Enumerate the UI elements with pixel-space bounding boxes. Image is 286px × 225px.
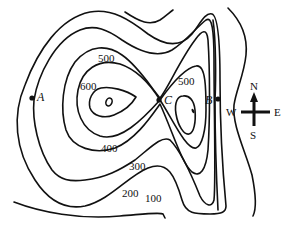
contour-label-400: 400 [101,142,118,154]
contour-label-500-left: 500 [98,52,115,64]
point-c-marker [156,97,161,102]
point-c-label: C [164,93,173,107]
compass-east-label: E [274,106,281,118]
contour-label-600: 600 [80,80,97,92]
compass-south-label: S [250,129,256,141]
contour-label-300: 300 [129,160,146,172]
contour-300 [34,19,215,205]
point-a-marker [29,95,34,100]
contour-600-right [175,96,195,134]
contour-400 [63,32,210,174]
compass-icon [241,92,270,126]
contour-label-200: 200 [122,187,139,199]
point-b-label: B [205,93,213,107]
contour-outer-left [125,10,173,23]
compass-west-label: W [226,106,237,118]
summit-left [105,97,113,107]
compass-north-label: N [250,80,258,92]
contour-map: 500 600 500 400 300 200 100 A C B N S E … [0,0,286,225]
point-b-marker [215,96,220,101]
point-a-label: A [36,90,45,104]
contour-label-500-right: 500 [178,75,195,87]
contour-label-100: 100 [145,192,162,204]
